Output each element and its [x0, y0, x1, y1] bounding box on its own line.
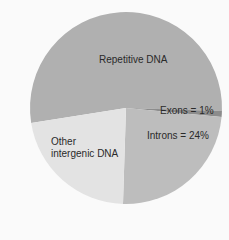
label-other-line1: Other	[51, 136, 76, 148]
pie-slice-introns	[123, 108, 222, 204]
label-introns: Introns = 24%	[147, 130, 209, 142]
label-repetitive-dna: Repetitive DNA	[99, 54, 167, 66]
label-exons: Exons = 1%	[160, 105, 214, 117]
label-other-line2: intergenic DNA	[51, 148, 118, 160]
